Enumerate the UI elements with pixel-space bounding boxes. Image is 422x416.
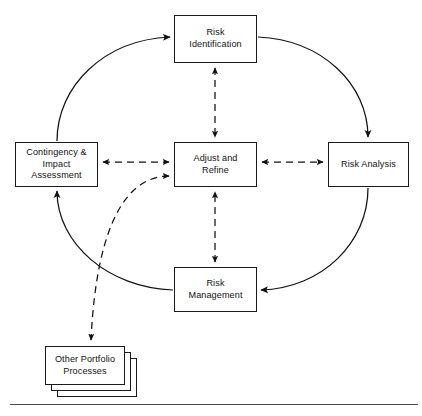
node-other-portfolio-processes[interactable]: Other Portfolio Processes [45,346,125,385]
risk-management-cycle-diagram: Risk Identification Contingency & Impact… [0,0,422,416]
node-risk-management-label: Risk Management [185,278,245,301]
edge-contingency-to-identification [57,37,170,141]
node-contingency-impact-assessment-label: Contingency & Impact Assessment [23,147,89,182]
edge-identification-to-analysis [258,37,368,137]
edge-management-to-contingency [57,191,173,290]
node-adjust-and-refine[interactable]: Adjust and Refine [174,142,257,187]
node-risk-analysis[interactable]: Risk Analysis [328,142,409,187]
node-contingency-impact-assessment[interactable]: Contingency & Impact Assessment [15,142,98,187]
node-adjust-and-refine-label: Adjust and Refine [191,153,241,176]
edge-adjust-other-portfolio [91,176,169,340]
node-risk-identification-label: Risk Identification [186,27,244,50]
node-risk-analysis-label: Risk Analysis [338,159,399,171]
edge-analysis-to-management [261,188,368,290]
node-risk-identification[interactable]: Risk Identification [174,15,257,63]
node-risk-management[interactable]: Risk Management [174,267,257,312]
footer-divider [10,404,418,405]
node-other-portfolio-processes-label: Other Portfolio Processes [52,354,118,377]
